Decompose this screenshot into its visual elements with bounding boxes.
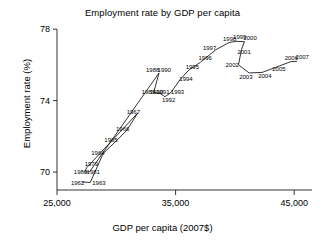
year-label: 2004 — [258, 73, 272, 79]
year-label: 2002 — [225, 62, 239, 68]
year-label: 1965 — [104, 137, 118, 143]
x-tick-label: 25,000 — [43, 198, 71, 208]
plot-area: 707478 25,00035,00045,000 19621963197919… — [0, 0, 325, 242]
year-label: 1994 — [179, 76, 193, 82]
year-label: 1967 — [127, 109, 141, 115]
year-label: 2007 — [296, 54, 310, 60]
year-label: 2005 — [272, 66, 286, 72]
year-label: 2003 — [239, 74, 253, 80]
year-label: 1979 — [85, 161, 99, 167]
year-label: 1995 — [186, 64, 200, 70]
year-label: 2000 — [243, 35, 257, 41]
x-tick-label: 35,000 — [162, 198, 190, 208]
y-axis: 707478 — [40, 24, 57, 190]
year-label: 1993 — [171, 89, 185, 95]
year-label: 1990 — [158, 67, 172, 73]
year-label: 1997 — [203, 45, 217, 51]
x-axis: 25,00035,00045,000 — [43, 190, 312, 208]
year-label: 1991 — [156, 89, 170, 95]
year-label: 1981 — [87, 169, 101, 175]
point-year-labels: 1962196319791980198119641965196619671989… — [71, 34, 310, 186]
year-label: 1964 — [91, 150, 105, 156]
year-label: 1962 — [71, 180, 85, 186]
y-tick-label: 74 — [40, 96, 50, 106]
y-tick-label: 78 — [40, 24, 50, 34]
y-tick-label: 70 — [40, 167, 50, 177]
year-label: 1966 — [116, 126, 130, 132]
chart-figure: Employment rate by GDP per capita Employ… — [0, 0, 325, 242]
year-label: 1963 — [92, 180, 106, 186]
year-label: 1996 — [199, 55, 213, 61]
x-tick-label: 45,000 — [280, 198, 308, 208]
year-label: 1992 — [162, 97, 176, 103]
year-label: 2001 — [237, 49, 251, 55]
data-series-line — [82, 41, 297, 182]
